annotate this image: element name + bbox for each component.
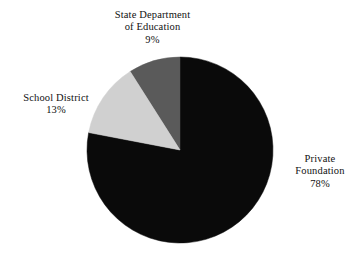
pie-chart-figure: State Department of Education 9% School … [0,0,360,266]
pie-label-private-foundation-line2: Foundation [280,165,360,177]
pie-label-school-district: School District 13% [0,92,112,117]
pie-label-state-department-line1: State Department [85,9,220,21]
pie-label-private-foundation-percent: 78% [280,178,360,190]
pie-label-private-foundation-line1: Private [280,153,360,165]
pie-label-state-department-percent: 9% [85,34,220,46]
pie-label-school-district-line1: School District [0,92,112,104]
pie-label-state-department-line2: of Education [85,21,220,33]
pie-label-school-district-percent: 13% [0,104,112,116]
pie-label-private-foundation: Private Foundation 78% [280,153,360,190]
pie-label-state-department: State Department of Education 9% [85,9,220,46]
